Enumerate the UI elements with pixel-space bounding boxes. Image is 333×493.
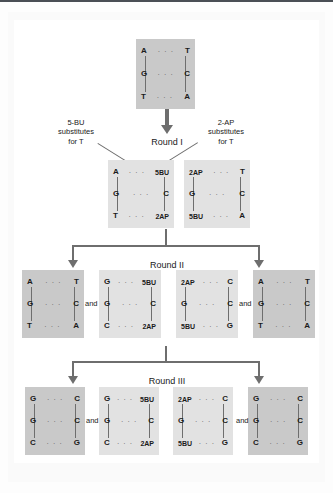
base-right: C <box>150 300 156 308</box>
hydrogen-bond-dots: · · · <box>187 301 227 308</box>
base-pair-row: G· · ·5BU <box>99 276 161 288</box>
base-right: G <box>297 439 303 447</box>
base-right: C <box>297 417 303 425</box>
base-pair-row: G· · ·C <box>184 188 250 200</box>
base-pair-row: G· · ·5BU <box>99 393 159 405</box>
base-left: 2AP <box>178 396 192 403</box>
base-pair-row: G· · ·C <box>99 415 159 427</box>
arrow-head-round1 <box>161 125 173 134</box>
base-right: C <box>73 300 79 308</box>
base-pair-row: G· · ·C <box>248 415 308 427</box>
hydrogen-bond-dots: · · · <box>203 213 239 220</box>
base-pair-row: G· · ·C <box>176 298 238 310</box>
base-left: 5BU <box>178 440 192 447</box>
bracket-bar-round3 <box>72 361 260 363</box>
hydrogen-bond-dots: · · · <box>110 301 150 308</box>
hydrogen-bond-dots: · · · <box>110 323 143 330</box>
base-right: 5BU <box>155 169 169 176</box>
callout-2ap-line1: 2-AP <box>196 118 256 127</box>
bracket-left-drop-round2 <box>72 245 74 261</box>
base-pair-row: 5BU· · ·G <box>173 437 233 449</box>
callout-5bu: 5-BU substitutes for T <box>46 118 106 146</box>
base-right: T <box>74 278 79 286</box>
base-pair-row: A· · ·T <box>22 276 84 288</box>
base-right: T <box>305 278 310 286</box>
bracket-right-drop-round3 <box>258 361 260 377</box>
base-right: 2AP <box>140 440 154 447</box>
hydrogen-bond-dots: · · · <box>264 301 304 308</box>
hydrogen-bond-dots: · · · <box>184 418 222 425</box>
base-left: 2AP <box>189 169 203 176</box>
bracket-stem-round3 <box>165 346 167 362</box>
hydrogen-bond-dots: · · · <box>32 323 73 330</box>
base-right: A <box>73 322 79 330</box>
hydrogen-bond-dots: · · · <box>147 71 184 78</box>
base-right: T <box>185 47 190 55</box>
base-right: T <box>240 168 245 176</box>
hydrogen-bond-dots: · · · <box>192 440 222 447</box>
hydrogen-bond-dots: · · · <box>110 440 141 447</box>
base-pair-row: A· · ·5BU <box>108 166 174 178</box>
round3-duplex-2: G· · ·5BUG· · ·CC· · ·2AP <box>99 387 159 455</box>
base-left: 5BU <box>181 323 195 330</box>
base-right: 2AP <box>142 323 156 330</box>
hydrogen-bond-dots: · · · <box>33 301 73 308</box>
base-right: C <box>163 190 169 198</box>
callout-5bu-line3: for T <box>46 137 106 146</box>
hydrogen-bond-dots: · · · <box>36 418 74 425</box>
hydrogen-bond-dots: · · · <box>147 48 185 55</box>
round1-duplex-2: 2AP· · ·TG· · ·C5BU· · ·A <box>184 160 250 228</box>
round3-duplex-1: G· · ·CG· · ·CC· · ·G <box>25 387 85 455</box>
bracket-right-arrowhead-round2 <box>254 260 264 268</box>
base-right: 5BU <box>142 279 156 286</box>
base-pair-row: A· · ·T <box>253 276 315 288</box>
and-connector-label: and <box>85 300 98 308</box>
bracket-left-arrowhead-round3 <box>68 376 78 384</box>
callout-5bu-line2: substitutes <box>46 127 106 136</box>
round3-duplex-4: G· · ·CG· · ·CC· · ·G <box>248 387 308 455</box>
base-right: C <box>227 278 233 286</box>
callout-2ap: 2-AP substitutes for T <box>196 118 256 146</box>
hydrogen-bond-dots: · · · <box>33 279 74 286</box>
base-pair-row: G· · ·C <box>108 188 174 200</box>
bracket-left-arrowhead-round2 <box>68 260 78 268</box>
base-pair-row: C· · ·2AP <box>99 320 161 332</box>
bracket-right-drop-round2 <box>258 245 260 261</box>
base-pair-row: C· · ·G <box>248 437 308 449</box>
base-pair-row: G· · ·C <box>25 415 85 427</box>
hydrogen-bond-dots: · · · <box>259 440 297 447</box>
round2-duplex-2: G· · ·5BUG· · ·CC· · ·2AP <box>99 270 161 338</box>
base-right: C <box>304 300 310 308</box>
hydrogen-bond-dots: · · · <box>36 396 74 403</box>
base-pair-row: A· · ·T <box>136 45 195 57</box>
callout-2ap-line2: substitutes <box>196 127 256 136</box>
hydrogen-bond-dots: · · · <box>264 279 305 286</box>
base-pair-row: T· · ·A <box>136 91 195 103</box>
base-left: 5BU <box>189 213 203 220</box>
base-pair-row: G· · ·C <box>248 393 308 405</box>
base-right: C <box>74 395 80 403</box>
callout-2ap-line3: for T <box>196 137 256 146</box>
base-right: C <box>297 395 303 403</box>
round3-duplex-3: 2AP· · ·CG· · ·C5BU· · ·G <box>173 387 233 455</box>
base-right: G <box>222 439 228 447</box>
base-pair-row: G· · ·C <box>99 298 161 310</box>
callout-5bu-line1: 5-BU <box>46 118 106 127</box>
hydrogen-bond-dots: · · · <box>118 213 155 220</box>
base-pair-row: C· · ·2AP <box>99 437 159 449</box>
round1-duplex-1: A· · ·5BUG· · ·CT· · ·2AP <box>108 160 174 228</box>
hydrogen-bond-dots: · · · <box>146 94 184 101</box>
base-pair-row: G· · ·C <box>22 298 84 310</box>
hydrogen-bond-dots: · · · <box>195 323 227 330</box>
base-pair-row: G· · ·C <box>253 298 315 310</box>
base-right: C <box>227 300 233 308</box>
base-pair-row: 2AP· · ·C <box>176 276 238 288</box>
hydrogen-bond-dots: · · · <box>259 396 297 403</box>
hydrogen-bond-dots: · · · <box>110 396 140 403</box>
base-pair-row: T· · ·A <box>253 320 315 332</box>
base-pair-row: 5BU· · ·A <box>184 210 250 222</box>
base-pair-row: T· · ·A <box>22 320 84 332</box>
round2-duplex-1: A· · ·TG· · ·CT· · ·A <box>22 270 84 338</box>
base-right: C <box>74 417 80 425</box>
base-pair-row: C· · ·G <box>25 437 85 449</box>
